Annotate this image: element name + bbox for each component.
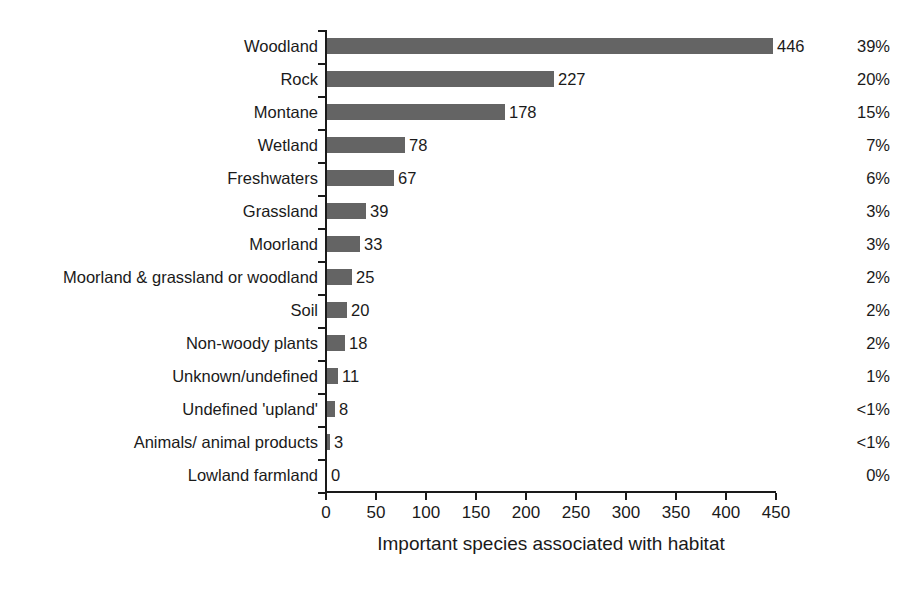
bar-value-label: 20 [351, 294, 369, 327]
chart-row: Freshwaters676% [0, 162, 909, 195]
category-label: Freshwaters [0, 162, 318, 195]
bar [327, 137, 405, 153]
category-tick [318, 426, 325, 428]
category-tick [318, 96, 325, 98]
category-label: Montane [0, 96, 318, 129]
category-tick [318, 261, 325, 263]
chart-row: Moorland & grassland or woodland252% [0, 261, 909, 294]
x-axis-tick [425, 493, 427, 500]
category-tick [318, 30, 325, 32]
percent-label: 1% [800, 360, 890, 393]
x-axis-tick [525, 493, 527, 500]
bar-value-label: 67 [398, 162, 416, 195]
percent-label: 3% [800, 195, 890, 228]
x-axis-tick [375, 493, 377, 500]
bar-value-label: 39 [370, 195, 388, 228]
bar [327, 335, 345, 351]
bar [327, 401, 335, 417]
chart-row: Lowland farmland00% [0, 459, 909, 492]
chart-row: Moorland333% [0, 228, 909, 261]
category-label: Wetland [0, 129, 318, 162]
x-axis-tick [325, 493, 327, 500]
bar [327, 203, 366, 219]
chart-row: Grassland393% [0, 195, 909, 228]
category-label: Soil [0, 294, 318, 327]
bar-value-label: 8 [339, 393, 348, 426]
x-axis-tick [725, 493, 727, 500]
chart-row: Animals/ animal products3<1% [0, 426, 909, 459]
percent-label: 6% [800, 162, 890, 195]
category-label: Grassland [0, 195, 318, 228]
chart-row: Woodland44639% [0, 30, 909, 63]
percent-label: 39% [800, 30, 890, 63]
bar [327, 434, 330, 450]
category-tick [318, 294, 325, 296]
category-label: Undefined 'upland' [0, 393, 318, 426]
category-tick [318, 459, 325, 461]
x-axis-tick [575, 493, 577, 500]
x-axis-tick-label: 450 [746, 503, 806, 523]
category-tick [318, 360, 325, 362]
category-tick [318, 63, 325, 65]
bar [327, 170, 394, 186]
category-label: Woodland [0, 30, 318, 63]
percent-label: 20% [800, 63, 890, 96]
x-axis-tick [475, 493, 477, 500]
bar-value-label: 3 [334, 426, 343, 459]
bar [327, 38, 773, 54]
category-label: Rock [0, 63, 318, 96]
category-label: Lowland farmland [0, 459, 318, 492]
category-tick [318, 393, 325, 395]
category-tick [318, 228, 325, 230]
category-label: Animals/ animal products [0, 426, 318, 459]
chart-row: Undefined 'upland'8<1% [0, 393, 909, 426]
category-tick [318, 162, 325, 164]
bar [327, 71, 554, 87]
category-tick [318, 327, 325, 329]
bar [327, 104, 505, 120]
bar-value-label: 178 [509, 96, 537, 129]
bar [327, 302, 347, 318]
bar [327, 269, 352, 285]
x-axis-title: Important species associated with habita… [325, 533, 777, 555]
x-axis-tick [775, 493, 777, 500]
bar-value-label: 25 [356, 261, 374, 294]
horizontal-bar-chart: Woodland44639%Rock22720%Montane17815%Wet… [0, 0, 909, 590]
chart-row: Non-woody plants182% [0, 327, 909, 360]
category-label: Non-woody plants [0, 327, 318, 360]
bar-value-label: 0 [331, 459, 340, 492]
category-tick [318, 195, 325, 197]
chart-row: Rock22720% [0, 63, 909, 96]
percent-label: <1% [800, 426, 890, 459]
bar-value-label: 18 [349, 327, 367, 360]
percent-label: <1% [800, 393, 890, 426]
percent-label: 2% [800, 327, 890, 360]
x-axis-tick [625, 493, 627, 500]
chart-row: Soil202% [0, 294, 909, 327]
category-label: Unknown/undefined [0, 360, 318, 393]
chart-row: Unknown/undefined111% [0, 360, 909, 393]
percent-label: 2% [800, 294, 890, 327]
bar-value-label: 78 [409, 129, 427, 162]
bar-value-label: 227 [558, 63, 586, 96]
chart-row: Wetland787% [0, 129, 909, 162]
chart-row: Montane17815% [0, 96, 909, 129]
category-tick [318, 129, 325, 131]
percent-label: 3% [800, 228, 890, 261]
percent-label: 2% [800, 261, 890, 294]
x-axis-tick [675, 493, 677, 500]
percent-label: 15% [800, 96, 890, 129]
category-label: Moorland & grassland or woodland [0, 261, 318, 294]
percent-label: 7% [800, 129, 890, 162]
bar-value-label: 11 [342, 360, 359, 393]
bar [327, 236, 360, 252]
category-tick [318, 492, 325, 494]
category-label: Moorland [0, 228, 318, 261]
bar [327, 368, 338, 384]
bar-value-label: 33 [364, 228, 382, 261]
percent-label: 0% [800, 459, 890, 492]
